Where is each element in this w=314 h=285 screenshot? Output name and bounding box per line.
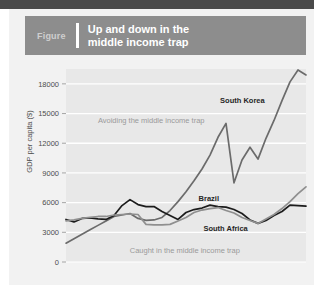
- y-tick-label: 0: [55, 258, 59, 267]
- y-tick-label: 9000: [42, 169, 59, 178]
- line-chart: 0300060009000120001500018000 South Korea…: [18, 61, 314, 285]
- y-tick-label: 6000: [42, 198, 59, 207]
- chart-svg: 0300060009000120001500018000 South Korea…: [18, 61, 314, 285]
- y-tick-label: 12000: [38, 139, 59, 148]
- y-tick-label: 15000: [38, 109, 59, 118]
- figure-root: Figure Up and down in the middle income …: [0, 0, 314, 285]
- annotation-label-south-korea: South Korea: [220, 96, 265, 105]
- y-tick-label: 18000: [38, 80, 59, 89]
- y-tick-label: 3000: [42, 228, 59, 237]
- page-body: Figure Up and down in the middle income …: [9, 9, 314, 285]
- page-top-band: [0, 0, 314, 9]
- annotation-note-avoiding-the-middle-income-trap: Avoiding the middle income trap: [98, 116, 205, 125]
- y-tick-marks: [62, 84, 66, 262]
- plot-background-group: [66, 69, 306, 262]
- plot-background: [66, 69, 306, 262]
- y-axis-title: GDP per capita ($): [25, 110, 34, 173]
- annotation-label-south-africa: South Africa: [203, 224, 248, 233]
- y-tick-labels: 0300060009000120001500018000: [38, 80, 59, 267]
- figure-header: Figure Up and down in the middle income …: [25, 16, 306, 55]
- figure-title: Up and down in the middle income trap: [88, 23, 189, 49]
- annotation-label-brazil: Brazil: [199, 194, 219, 203]
- annotation-note-caught-in-the-middle-income-trap: Caught in the middle income trap: [130, 246, 240, 255]
- figure-title-rule: [76, 23, 79, 48]
- figure-label: Figure: [37, 31, 66, 41]
